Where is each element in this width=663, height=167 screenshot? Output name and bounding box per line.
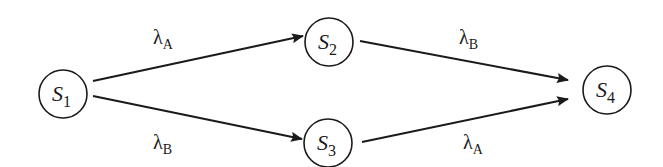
node-subscript: 2 (329, 41, 337, 58)
edge-s1-s2 (93, 36, 303, 81)
lambda-symbol: λ (153, 26, 163, 48)
lambda-symbol: λ (459, 26, 469, 48)
edge-subscript: A (473, 142, 484, 157)
edge-label-s3-s4: λA (463, 131, 484, 157)
edge-label-s2-s4: λB (459, 26, 478, 52)
edge-subscript: A (163, 37, 174, 52)
node-subscript: 4 (607, 89, 615, 106)
lambda-symbol: λ (153, 131, 163, 153)
edge-subscript: B (469, 37, 478, 52)
lambda-symbol: λ (463, 131, 473, 153)
edge-label-s1-s2: λA (153, 26, 174, 52)
node-label: S (317, 130, 328, 155)
node-subscript: 1 (63, 93, 71, 110)
node-label: S (318, 29, 329, 54)
node-label: S (596, 77, 607, 102)
edge-s1-s3 (93, 96, 302, 139)
edge-subscript: B (163, 142, 172, 157)
state-diagram: λA λB λB λA S1 S2 S3 S4 (0, 0, 663, 167)
node-s4: S4 (583, 66, 631, 114)
node-subscript: 3 (328, 142, 336, 159)
node-label: S (52, 81, 63, 106)
node-s3: S3 (304, 119, 352, 167)
node-s2: S2 (305, 18, 353, 66)
edge-label-s1-s3: λB (153, 131, 172, 157)
node-s1: S1 (39, 70, 87, 118)
